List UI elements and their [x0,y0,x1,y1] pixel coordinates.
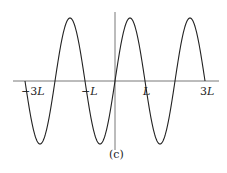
figure-caption: (c) [109,148,124,161]
tick-label-L: L [142,85,150,98]
tick-label-minus-L: −L [81,85,98,98]
tick-label-3L: 3L [200,85,214,98]
sine-wave-diagram: −3L −L L 3L (c) [0,0,227,173]
tick-label-minus-3L: −3L [21,85,45,98]
